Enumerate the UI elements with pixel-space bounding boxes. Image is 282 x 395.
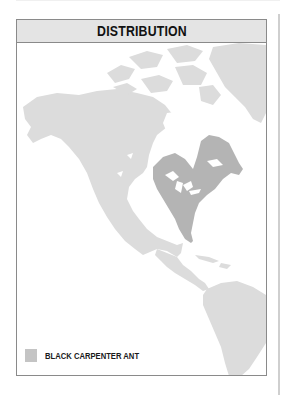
species-range-area (153, 135, 243, 243)
panel-title: DISTRIBUTION (97, 23, 187, 39)
panel-header: DISTRIBUTION (17, 20, 266, 43)
map-legend: BLACK CARPENTER ANT (25, 349, 150, 362)
top-rule (16, 0, 280, 1)
legend-label: BLACK CARPENTER ANT (45, 351, 139, 361)
page-edge-rule (278, 14, 280, 395)
distribution-panel: DISTRIBUTION (16, 19, 267, 376)
land-mass (23, 43, 266, 376)
distribution-map (17, 43, 266, 376)
legend-swatch (25, 349, 37, 362)
